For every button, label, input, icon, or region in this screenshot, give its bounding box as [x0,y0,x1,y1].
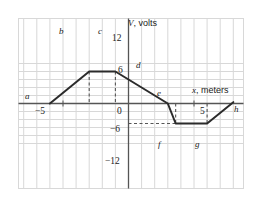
plot-canvas [0,0,263,208]
x-tick-5: 5 [200,106,205,116]
point-label-h: h [234,104,239,114]
point-label-e: e [157,88,161,98]
x-axis-title: x, meters [192,85,229,95]
graph-figure: V, volts x, meters 12 6 −6 −12 −5 0 5 a … [0,0,263,208]
y-tick-minus-6: −6 [110,124,120,134]
x-tick-minus-5: −5 [35,106,45,116]
y-axis-unit: , volts [134,18,158,28]
y-tick-12: 12 [112,33,122,43]
y-tick-6: 6 [118,65,123,75]
point-label-d: d [136,60,141,70]
point-label-f: f [158,139,161,149]
point-label-g: g [195,139,200,149]
point-label-b: b [59,26,64,36]
point-label-a: a [25,91,30,101]
point-label-c: c [98,26,102,36]
x-axis-unit: , meters [196,85,229,95]
x-tick-0: 0 [117,106,122,116]
y-tick-minus-12: −12 [105,156,120,166]
y-axis-title: V, volts [128,18,157,28]
